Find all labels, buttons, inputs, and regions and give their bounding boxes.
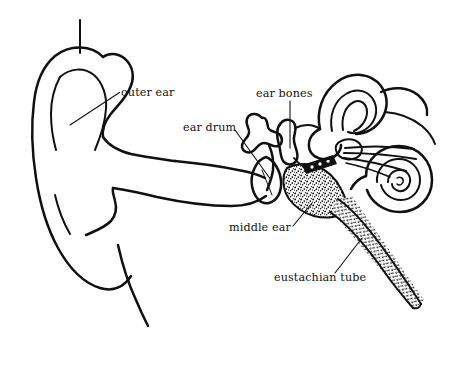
label-ear-bones: ear bones <box>256 87 313 100</box>
label-eustachian-tube: eustachian tube <box>274 271 366 284</box>
label-outer-ear: outer ear <box>121 86 175 99</box>
ear-anatomy-diagram: outer ear ear drum ear bones middle ear … <box>0 0 450 368</box>
diagram-background <box>0 0 450 368</box>
stapes-window-1 <box>310 165 313 168</box>
ear-diagram-canvas: outer ear ear drum ear bones middle ear … <box>0 0 450 368</box>
label-middle-ear: middle ear <box>229 221 291 234</box>
label-ear-drum: ear drum <box>183 121 237 134</box>
stapes-window-2 <box>318 162 321 165</box>
